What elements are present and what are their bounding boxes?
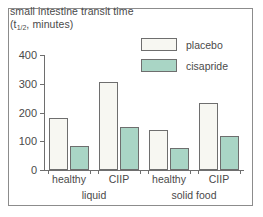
title-subscript-half: 1/2 — [17, 21, 27, 34]
y-tick-200 — [40, 113, 45, 114]
x-category-label-2: healthy — [152, 173, 186, 185]
x-tick-1-0 — [98, 170, 99, 174]
bar-placebo-healthy-2 — [149, 130, 168, 170]
x-group-label-solid food: solid food — [172, 189, 217, 201]
bar-cisapride-healthy-0 — [70, 146, 89, 170]
x-tick-2-0 — [148, 170, 149, 174]
y-tick-100 — [40, 141, 45, 142]
legend-label-placebo: placebo — [186, 39, 223, 51]
plot-area: 0100200300400 — [44, 55, 244, 170]
bar-placebo-healthy-0 — [49, 118, 68, 170]
y-tick-label-0: 0 — [31, 164, 37, 176]
y-tick-300 — [40, 84, 45, 85]
legend-item-placebo: placebo — [141, 36, 246, 53]
x-tick-0-0 — [48, 170, 49, 174]
bar-cisapride-CIIP-1 — [120, 127, 139, 170]
x-category-label-3: CIIP — [209, 173, 229, 185]
title-units: , minutes) — [26, 18, 73, 30]
bar-cisapride-healthy-2 — [170, 148, 189, 170]
x-category-label-1: CIIP — [109, 173, 129, 185]
bar-placebo-CIIP-3 — [199, 103, 218, 170]
title-paren-open: (t — [10, 18, 17, 30]
x-tick-3-0 — [198, 170, 199, 174]
bar-cisapride-CIIP-3 — [220, 136, 239, 170]
x-tick-3-1 — [240, 170, 241, 174]
chart-title-line-2: (t1/2, minutes) — [10, 18, 200, 34]
y-tick-400 — [40, 55, 45, 56]
y-tick-label-100: 100 — [19, 135, 37, 147]
y-tick-0 — [40, 170, 45, 171]
x-category-label-0: healthy — [52, 173, 86, 185]
y-tick-label-400: 400 — [19, 49, 37, 61]
legend-swatch-placebo — [141, 38, 177, 51]
x-tick-0-1 — [90, 170, 91, 174]
x-tick-1-1 — [140, 170, 141, 174]
chart-figure: small intestine transit time (t1/2, minu… — [0, 0, 263, 217]
x-group-label-liquid: liquid — [82, 189, 107, 201]
chart-title-line-1: small intestine transit time — [10, 5, 200, 18]
chart-title: small intestine transit time (t1/2, minu… — [10, 5, 200, 34]
bar-placebo-CIIP-1 — [99, 82, 118, 170]
x-axis-line — [44, 170, 244, 171]
y-tick-label-200: 200 — [19, 107, 37, 119]
x-tick-2-1 — [190, 170, 191, 174]
y-tick-label-300: 300 — [19, 78, 37, 90]
